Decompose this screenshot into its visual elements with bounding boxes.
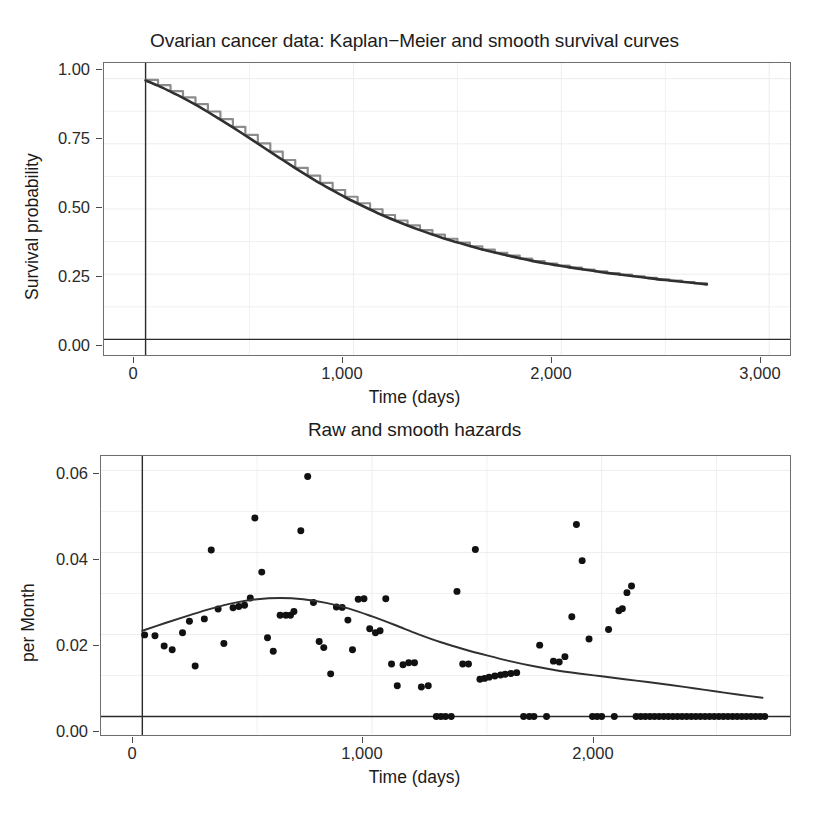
survival-chart-title: Ovarian cancer data: Kaplan−Meier and sm… <box>0 30 829 52</box>
hazard-ytick-mark-0 <box>93 731 99 732</box>
survival-ytick-4: 1.00 <box>26 60 90 79</box>
hazard-xtick-mark-1 <box>362 737 363 743</box>
survival-ytick-mark-4 <box>96 69 102 70</box>
survival-ytick-mark-0 <box>96 345 102 346</box>
survival-xtick-mark-0 <box>133 357 134 363</box>
hazard-xtick-2: 2,000 <box>553 744 633 763</box>
hazard-y-axis-title: per Month <box>18 583 39 662</box>
hazard-chart-title: Raw and smooth hazards <box>0 419 829 441</box>
survival-xtick-mark-1 <box>342 357 343 363</box>
survival-xtick-0: 0 <box>93 364 173 383</box>
survival-panel: Ovarian cancer data: Kaplan−Meier and sm… <box>0 0 829 416</box>
hazard-x-axis-title: Time (days) <box>0 767 829 788</box>
survival-plot-svg <box>104 63 790 355</box>
survival-ytick-mark-2 <box>96 207 102 208</box>
hazard-plot-svg <box>101 456 790 735</box>
hazard-ytick-3: 0.06 <box>20 464 88 483</box>
survival-y-axis-title: Survival probability <box>22 153 43 300</box>
hazard-ytick-mark-2 <box>93 559 99 560</box>
survival-ytick-0: 0.00 <box>26 336 90 355</box>
hazard-ytick-mark-3 <box>93 473 99 474</box>
hazard-ytick-mark-1 <box>93 645 99 646</box>
hazard-xtick-1: 1,000 <box>322 744 402 763</box>
hazard-ytick-2: 0.04 <box>20 550 88 569</box>
survival-ytick-mark-3 <box>96 138 102 139</box>
hazard-ytick-0: 0.00 <box>20 722 88 741</box>
survival-ytick-3: 0.75 <box>26 129 90 148</box>
hazard-plot-area <box>100 455 791 736</box>
survival-ytick-mark-1 <box>96 276 102 277</box>
hazard-xtick-0: 0 <box>92 744 172 763</box>
figure-container: Ovarian cancer data: Kaplan−Meier and sm… <box>0 0 829 833</box>
hazard-xtick-mark-2 <box>593 737 594 743</box>
survival-xtick-2: 2,000 <box>511 364 591 383</box>
survival-plot-area <box>103 62 791 356</box>
survival-xtick-mark-3 <box>760 357 761 363</box>
survival-xtick-3: 3,000 <box>720 364 800 383</box>
survival-xtick-mark-2 <box>551 357 552 363</box>
survival-xtick-1: 1,000 <box>302 364 382 383</box>
hazard-xtick-mark-0 <box>132 737 133 743</box>
hazard-panel: Raw and smooth hazards 0.00 0.02 0.04 0.… <box>0 404 829 833</box>
